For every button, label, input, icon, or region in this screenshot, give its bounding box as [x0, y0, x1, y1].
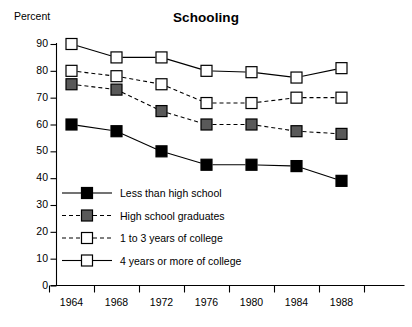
data-point-marker — [66, 39, 77, 50]
data-point-marker — [336, 92, 347, 103]
legend-item-label: 4 years or more of college — [120, 255, 241, 267]
series-line-segment — [257, 125, 290, 130]
series-line-segment — [257, 98, 290, 102]
data-point-marker — [291, 72, 302, 83]
data-point-marker — [201, 119, 212, 130]
schooling-line-chart: Percent Schooling 0102030405060708090 19… — [0, 0, 412, 327]
data-point-marker — [246, 98, 257, 109]
data-point-marker — [111, 126, 122, 137]
series-line-segment — [167, 59, 201, 69]
data-point-marker — [246, 159, 257, 170]
data-point-marker — [246, 67, 257, 78]
y-axis-tick-label: 60 — [22, 119, 48, 130]
series-line-segment — [257, 73, 290, 77]
series-line-segment — [167, 153, 201, 163]
data-point-marker — [336, 63, 347, 74]
series-line-segment — [77, 46, 111, 56]
data-point-marker — [66, 79, 77, 90]
data-point-marker — [336, 175, 347, 186]
x-axis-tick-label: 1984 — [275, 297, 319, 308]
series-line-segment — [167, 87, 201, 101]
series-line-segment — [77, 72, 110, 76]
y-axis-tick-label: 30 — [22, 199, 48, 210]
y-axis-tick-label: 40 — [22, 172, 48, 183]
y-axis-tick-label: 80 — [22, 65, 48, 76]
legend-sample-marker — [82, 233, 93, 244]
series-group — [66, 39, 347, 187]
data-point-marker — [111, 71, 122, 82]
series-line-segment — [212, 71, 245, 72]
series-line-segment — [302, 168, 336, 179]
legend-sample-marker — [82, 255, 93, 266]
data-point-marker — [201, 65, 212, 76]
legend-symbols-group — [62, 188, 112, 267]
data-point-marker — [246, 119, 257, 130]
data-point-marker — [156, 146, 167, 157]
series-3 — [66, 39, 347, 84]
series-line-segment — [122, 134, 156, 149]
data-point-marker — [111, 84, 122, 95]
plot-area — [0, 0, 412, 327]
y-axis-tick-label: 90 — [22, 38, 48, 49]
series-line-segment — [77, 85, 110, 89]
x-axis-tick-label: 1968 — [95, 297, 139, 308]
x-axis-tick-label: 1964 — [50, 297, 94, 308]
y-axis-tick-label: 20 — [22, 226, 48, 237]
y-axis-tick-label: 70 — [22, 92, 48, 103]
y-axis-tick-label: 50 — [22, 145, 48, 156]
data-point-marker — [66, 119, 77, 130]
series-line-segment — [257, 165, 290, 166]
data-point-marker — [111, 52, 122, 63]
legend-item-label: Less than high school — [120, 187, 222, 199]
legend-sample-marker — [82, 188, 93, 199]
x-axis-tick-label: 1980 — [230, 297, 274, 308]
legend-item-label: High school graduates — [120, 210, 224, 222]
legend-sample-marker — [82, 210, 93, 221]
data-point-marker — [156, 52, 167, 63]
data-point-marker — [291, 161, 302, 172]
data-point-marker — [201, 98, 212, 109]
x-axis-tick-label: 1988 — [320, 297, 364, 308]
data-point-marker — [66, 65, 77, 76]
series-line-segment — [302, 132, 335, 134]
legend-item-label: 1 to 3 years of college — [120, 232, 223, 244]
data-point-marker — [291, 126, 302, 137]
data-point-marker — [156, 106, 167, 117]
data-point-marker — [156, 79, 167, 90]
y-axis-tick-label: 10 — [22, 253, 48, 264]
series-line-segment — [122, 92, 156, 108]
series-line-segment — [167, 113, 201, 123]
series-line-segment — [302, 69, 335, 76]
x-axis-tick-label: 1976 — [185, 297, 229, 308]
series-line-segment — [77, 125, 110, 130]
y-axis-tick-label: 0 — [22, 280, 48, 291]
x-axis-tick-label: 1972 — [140, 297, 184, 308]
data-point-marker — [291, 92, 302, 103]
data-point-marker — [336, 128, 347, 139]
series-line-segment — [122, 77, 155, 83]
data-point-marker — [201, 159, 212, 170]
